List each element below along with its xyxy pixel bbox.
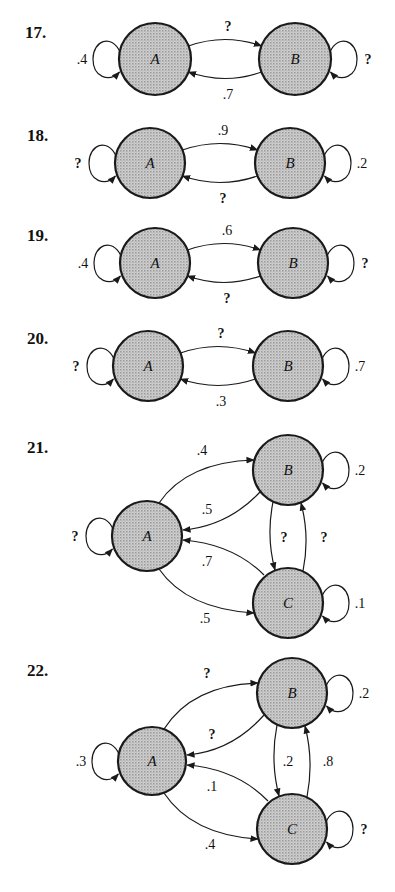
edge-label-B-to-A: .5 [202,502,213,517]
self-loop-B [326,675,353,711]
diagram-22: .3.2???.1.4.2.8ABC [76,658,370,864]
edge-label-B-to-A: .3 [216,394,227,409]
edge-label-A-to-B: .6 [222,223,233,238]
edge-label-C-to-A: .7 [202,554,213,569]
diagram-21: ?.2.1.4.5.7.5??ABC [72,435,366,638]
self-loop-B [327,245,354,281]
self-loop-C [326,811,353,847]
edge-label-A-to-B: .4 [197,443,208,458]
edge-label-B-to-A: ? [224,291,231,306]
self-loop-label-A: ? [73,359,80,374]
self-loop-A [86,518,113,554]
diagram-17: .4??.7AB [77,19,372,102]
state-label-A: A [146,753,157,769]
state-label-A: A [141,528,152,544]
self-loop-label-C: .1 [355,596,366,611]
self-loop-A [87,348,114,384]
self-loop-B [322,348,349,384]
self-loop-C [322,585,349,621]
state-label-B: B [290,51,299,67]
diagram-19: .4?.6?AB [78,223,369,306]
edge-label-A-to-B: ? [204,666,211,681]
edge-label-C-to-B: .8 [323,754,334,769]
self-loop-label-A: .4 [77,52,88,67]
diagram-18: ?.2.9?AB [75,123,368,206]
edge-B-to-C [274,725,279,796]
self-loop-label-B: .2 [357,156,368,171]
edge-A-to-B [159,460,254,503]
edge-B-to-A [187,715,264,755]
diagram-20: ?.7?.3AB [73,326,366,409]
self-loop-A [92,743,119,779]
edge-label-A-to-C: .4 [205,837,216,852]
self-loop-B [330,41,357,77]
self-loop-label-B: ? [365,52,372,67]
edge-A-to-C [164,793,258,839]
edge-A-to-C [159,569,254,613]
edge-A-to-B [188,244,261,251]
self-loop-label-B: .2 [355,463,366,478]
edge-B-to-A [188,72,261,79]
edge-label-B-to-C: .2 [283,754,294,769]
self-loop-label-A: ? [75,156,82,171]
edge-label-A-to-B: ? [225,19,232,34]
self-loop-A [93,41,120,77]
edge-label-A-to-B: ? [218,326,225,341]
edge-label-C-to-B: ? [321,530,328,545]
edge-C-to-B [305,726,310,797]
state-label-A: A [144,155,155,171]
self-loop-B [322,452,349,488]
edge-C-to-B [301,503,306,571]
edge-label-A-to-C: .5 [200,611,211,626]
edge-label-B-to-C: ? [281,530,288,545]
edge-A-to-B [188,40,261,47]
state-label-B: B [287,685,296,701]
edge-B-to-A [181,379,256,386]
self-loop-label-B: ? [362,256,369,271]
self-loop-B [324,145,351,181]
edge-label-C-to-A: .1 [207,779,218,794]
self-loop-label-A: ? [72,529,79,544]
self-loop-label-A: .3 [76,754,87,769]
self-loop-label-C: ? [361,822,368,837]
edge-label-B-to-A: .7 [223,87,234,102]
self-loop-A [89,145,116,181]
self-loop-A [94,245,121,281]
state-label-B: B [288,255,297,271]
edge-C-to-A [183,540,264,575]
edge-label-A-to-B: .9 [218,123,229,138]
edge-B-to-A [188,276,261,283]
edge-label-B-to-A: ? [220,191,227,206]
state-label-B: B [283,358,292,374]
edge-B-to-C [270,502,275,570]
state-label-B: B [285,155,294,171]
state-label-A: A [149,255,160,271]
edge-B-to-A [183,176,258,183]
state-label-A: A [142,358,153,374]
edge-label-B-to-A: ? [209,727,216,742]
self-loop-label-B: .2 [359,686,370,701]
state-label-B: B [283,462,292,478]
edge-A-to-B [181,347,256,354]
state-label-C: C [283,595,294,611]
state-label-A: A [149,51,160,67]
edge-B-to-A [183,492,260,530]
edge-A-to-B [183,144,258,151]
self-loop-label-A: .4 [78,256,89,271]
state-label-C: C [287,821,298,837]
edge-C-to-A [187,765,268,801]
edge-A-to-B [164,683,258,729]
self-loop-label-B: .7 [355,359,366,374]
markov-diagrams-canvas: .4??.7AB?.2.9?AB.4?.6?AB?.7?.3AB?.2.1.4.… [0,0,395,892]
